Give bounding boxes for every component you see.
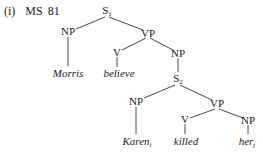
node-np-subject: NP (61, 25, 75, 37)
edge-s2-np (144, 85, 175, 98)
syntax-tree-figure: (i) MS 81 S1 NP VP V (0, 0, 263, 155)
word-karen: Kareni (122, 135, 151, 147)
edge-s1-vp (109, 17, 143, 30)
word-killed: killed (174, 135, 198, 147)
word-morris: Morris (53, 67, 84, 79)
edge-vp2-np (219, 109, 243, 118)
node-v-embedded: V (181, 113, 189, 125)
edge-vp-v (122, 38, 146, 50)
node-vp-embedded: VP (210, 97, 224, 109)
node-vp-matrix: VP (141, 27, 155, 39)
node-np-object: NP (171, 47, 185, 59)
node-v-matrix: V (113, 46, 121, 58)
word-believe: believe (103, 67, 134, 79)
word-her: herj (239, 135, 256, 147)
node-np-embedded-subject: NP (129, 95, 143, 107)
node-s1: S1 (102, 4, 112, 16)
node-np-embedded-object: NP (241, 114, 255, 126)
node-s2: S2 (173, 72, 183, 84)
edge-vp-np (150, 38, 173, 50)
edge-s1-np (76, 17, 105, 29)
edge-s2-vp (180, 85, 212, 100)
edge-vp2-v (190, 109, 215, 118)
